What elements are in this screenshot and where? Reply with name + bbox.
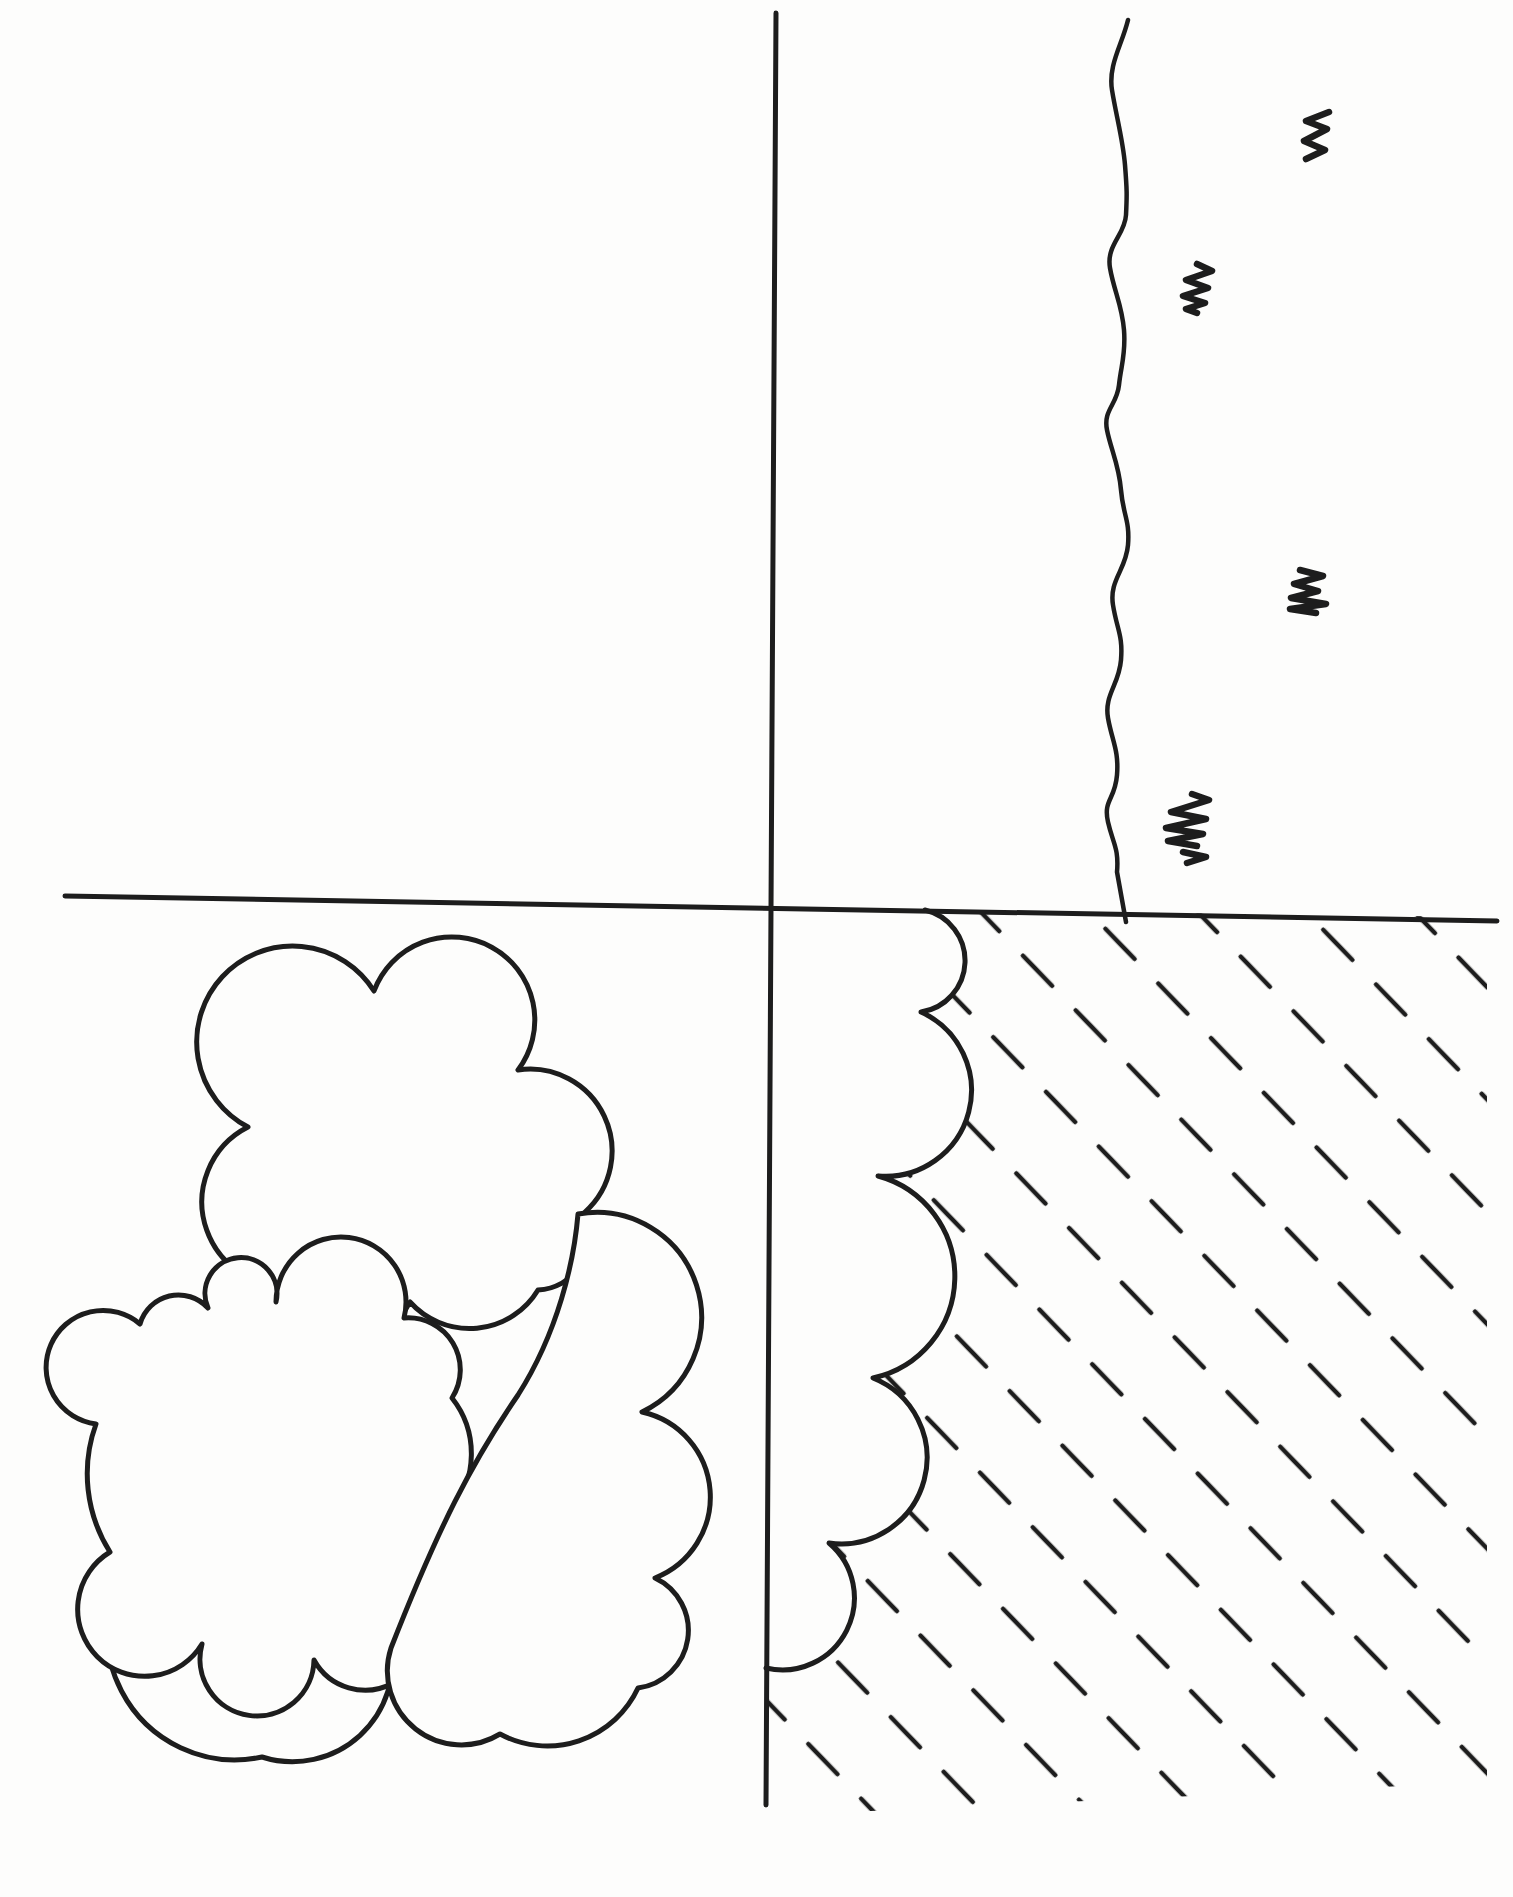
sketch-page: [0, 0, 1513, 1897]
drawing-canvas: [0, 0, 1513, 1897]
